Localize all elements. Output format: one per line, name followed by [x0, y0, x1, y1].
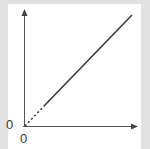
dashed-line-segment [25, 105, 45, 126]
y-axis-arrow-icon [22, 9, 28, 16]
x-origin-label: 0 [20, 132, 27, 145]
solid-line-segment [45, 15, 132, 105]
x-axis-arrow-icon [131, 124, 138, 130]
y-origin-label: 0 [6, 118, 13, 131]
chart-plot [0, 0, 150, 149]
